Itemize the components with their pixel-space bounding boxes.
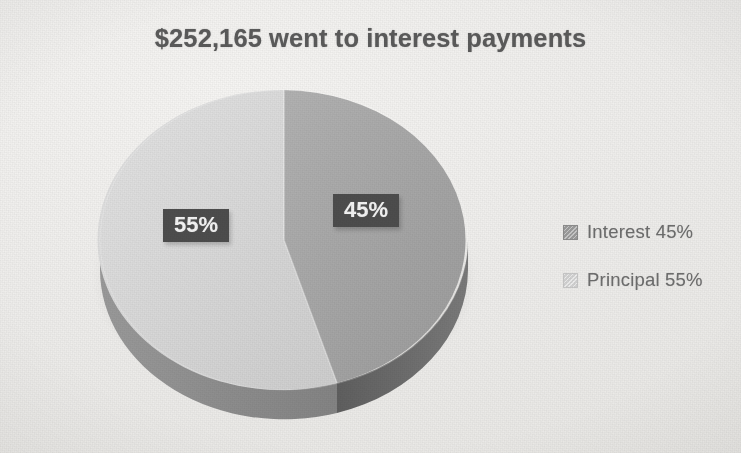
chart-title: $252,165 went to interest payments	[0, 24, 741, 53]
pie-chart-slide: $252,165 went to interest payments	[0, 0, 741, 453]
data-label-principal: 55%	[163, 209, 229, 242]
chart-legend: Interest 45% Principal 55%	[563, 220, 703, 316]
legend-item-principal[interactable]: Principal 55%	[563, 268, 703, 292]
data-label-interest: 45%	[333, 194, 399, 227]
legend-label-interest: Interest 45%	[587, 221, 693, 243]
legend-label-principal: Principal 55%	[587, 269, 703, 291]
legend-item-interest[interactable]: Interest 45%	[563, 220, 703, 244]
interest-swatch-icon	[563, 225, 578, 240]
principal-swatch-icon	[563, 273, 578, 288]
